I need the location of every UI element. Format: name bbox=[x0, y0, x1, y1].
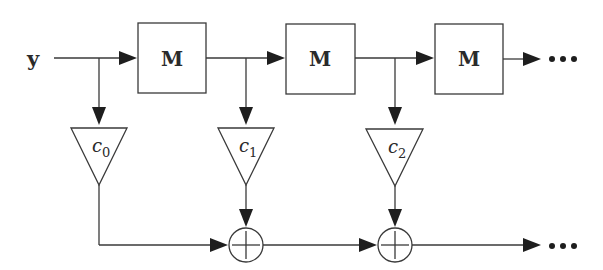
gain-label-1: c1 bbox=[239, 135, 257, 160]
ellipsis-top-icon bbox=[549, 56, 577, 62]
ellipsis-bottom-icon bbox=[549, 243, 577, 249]
arrow-to-gain-1-icon bbox=[239, 107, 253, 125]
delay-label-1: M bbox=[161, 47, 183, 71]
gain-label-0: c0 bbox=[92, 135, 110, 160]
delay-label-2: M bbox=[309, 47, 331, 71]
arrow-top-continuation-icon bbox=[523, 52, 541, 66]
arrow-to-gain-2-icon bbox=[388, 107, 402, 125]
arrow-into-delay-1-icon bbox=[119, 51, 137, 65]
arrow-into-adder-2-icon bbox=[359, 238, 377, 252]
delay-label-3: M bbox=[458, 47, 480, 71]
input-label: y bbox=[26, 46, 40, 71]
arrow-into-adder-1-icon bbox=[210, 238, 228, 252]
arrow-into-delay-3-icon bbox=[416, 51, 434, 65]
arrow-gain1-to-adder-icon bbox=[239, 209, 253, 227]
arrow-gain2-to-adder-icon bbox=[388, 209, 402, 227]
gain-label-2: c2 bbox=[388, 136, 406, 161]
arrow-bottom-continuation-icon bbox=[523, 238, 541, 252]
fir-diagram: y M M M c0 c1 c2 bbox=[0, 0, 603, 270]
arrow-into-delay-2-icon bbox=[267, 51, 285, 65]
arrow-to-gain-0-icon bbox=[92, 107, 106, 125]
